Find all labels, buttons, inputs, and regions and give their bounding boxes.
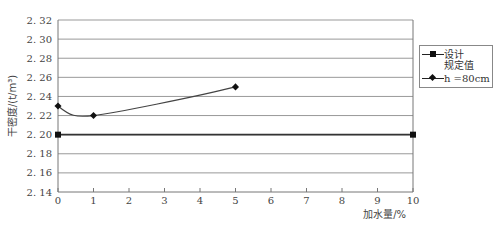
diamond-marker-icon [90, 112, 97, 119]
series-line [58, 87, 236, 116]
x-tick-label: 4 [197, 195, 203, 206]
diamond-marker-icon [232, 83, 239, 90]
x-tick-labels: 012345678910 [55, 195, 420, 206]
square-marker-icon [410, 132, 416, 138]
y-tick-label: 2. 14 [27, 187, 52, 198]
y-tick-label: 2. 26 [27, 72, 52, 83]
y-tick-labels: 2. 322. 302. 282. 262. 242. 222. 202. 18… [27, 15, 52, 198]
line-chart: 2. 322. 302. 282. 262. 242. 222. 202. 18… [0, 0, 494, 233]
data-series [54, 83, 416, 137]
x-tick-label: 0 [55, 195, 61, 206]
legend-item-design: 设计规定值 [422, 49, 474, 71]
x-tick-label: 6 [268, 195, 274, 206]
axes [58, 20, 413, 192]
legend: 设计规定值 h =80cm [419, 45, 493, 88]
legend-label: h =80cm [444, 73, 490, 84]
gridlines [58, 20, 413, 173]
x-axis-label: 加水量/% [363, 209, 406, 220]
y-tick-label: 2. 30 [27, 34, 52, 45]
y-tick-label: 2. 16 [27, 167, 52, 178]
y-axis-label: 干密度/(t/m³) [6, 75, 18, 137]
y-tick-label: 2. 18 [27, 148, 52, 159]
square-marker-icon [55, 132, 61, 138]
y-tick-label: 2. 22 [27, 110, 52, 121]
x-tick-label: 1 [90, 195, 96, 206]
y-tick-label: 2. 28 [27, 53, 52, 64]
square-marker-icon [422, 49, 444, 59]
x-tick-label: 7 [303, 195, 309, 206]
y-tick-label: 2. 32 [27, 15, 52, 26]
x-tick-label: 3 [161, 195, 167, 206]
legend-label: 设计 [444, 49, 474, 60]
x-tick-label: 8 [339, 195, 345, 206]
diamond-marker-icon [422, 73, 444, 83]
x-tick-label: 5 [232, 195, 238, 206]
y-tick-label: 2. 24 [27, 91, 52, 102]
legend-label: 规定值 [444, 60, 474, 71]
x-tick-label: 2 [126, 195, 132, 206]
y-tick-label: 2. 20 [27, 129, 52, 140]
x-tick-label: 10 [407, 195, 420, 206]
x-tick-label: 9 [374, 195, 380, 206]
legend-item-h80: h =80cm [422, 73, 490, 84]
